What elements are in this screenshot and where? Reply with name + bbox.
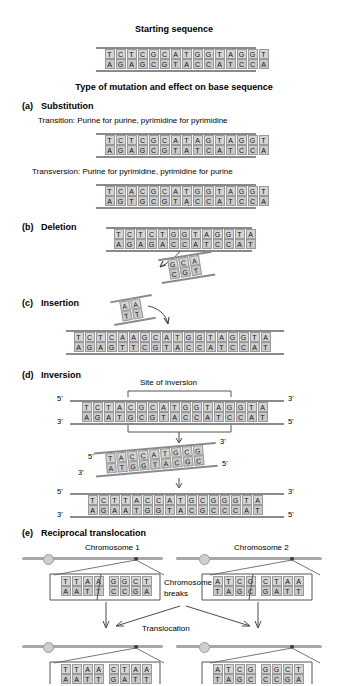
base-top: C: [151, 332, 161, 342]
base-top: G: [239, 332, 249, 342]
base-bottom: A: [110, 505, 120, 515]
insertion-arrow: [146, 302, 176, 330]
base-pair: GC: [227, 332, 238, 352]
base-bottom: A: [191, 239, 201, 249]
base-bottom: T: [149, 459, 160, 470]
base-top: C: [138, 135, 148, 145]
base-bottom: T: [261, 342, 271, 352]
c2-after-frame: [202, 662, 314, 686]
base-bottom: G: [154, 505, 164, 515]
base-top: G: [204, 135, 214, 145]
base-pair: GC: [247, 49, 258, 69]
base-bottom: A: [182, 196, 192, 206]
base-bottom: C: [248, 196, 258, 206]
inversion-down-arrow-2: [174, 478, 184, 490]
base-top: C: [143, 495, 153, 505]
base-top: T: [182, 186, 192, 196]
base-top: G: [193, 49, 203, 59]
base-bottom: G: [99, 505, 109, 515]
base-pair: GC: [236, 49, 247, 69]
base-bottom: C: [137, 412, 147, 422]
base-pair: TA: [258, 49, 269, 69]
base-pair: AT: [225, 186, 236, 206]
base-top: C: [85, 332, 95, 342]
base-top: G: [137, 402, 147, 412]
base-bottom: C: [184, 342, 194, 352]
base-top: C: [148, 402, 158, 412]
base-bottom: T: [118, 342, 128, 352]
base-bottom: A: [250, 342, 260, 352]
translocation-caption: Translocation: [142, 624, 190, 633]
base-pair: AT: [170, 49, 181, 69]
base-top: C: [99, 495, 109, 505]
base-top: C: [138, 49, 148, 59]
section-b-name: Deletion: [41, 222, 77, 232]
base-pair: GC: [224, 402, 235, 422]
base-bottom: G: [160, 59, 170, 69]
base-bottom: G: [138, 145, 148, 155]
base-pair: TA: [214, 49, 225, 69]
base-top: G: [193, 186, 203, 196]
base-bottom: A: [88, 505, 98, 515]
site-of-inversion-bracket-top: [128, 390, 232, 398]
inv-top-3prime-left: 3': [57, 417, 63, 426]
section-e-name: Reciprocal translocation: [41, 528, 146, 538]
base-pair: CG: [84, 332, 95, 352]
base-bottom: A: [182, 145, 192, 155]
base-top: T: [182, 49, 192, 59]
base-top: T: [110, 495, 120, 505]
base-top: G: [184, 332, 194, 342]
c1-before-frame: [50, 574, 162, 602]
deletion-fragment-ladder: GCCGAT: [166, 255, 202, 280]
base-pair: CG: [137, 49, 148, 69]
base-pair: TA: [126, 135, 137, 155]
base-bottom: T: [159, 412, 169, 422]
base-top: G: [237, 49, 247, 59]
base-top: T: [173, 332, 183, 342]
base-top: C: [154, 495, 164, 505]
base-bottom: A: [160, 458, 171, 469]
base-pair: AT: [260, 332, 271, 352]
base-pair: CG: [92, 402, 103, 422]
base-top: C: [125, 229, 135, 239]
base-top: T: [158, 229, 168, 239]
base-bottom: C: [149, 145, 159, 155]
base-top: T: [215, 186, 225, 196]
base-pair: GC: [223, 229, 234, 249]
base-pair: TA: [135, 229, 146, 249]
base-pair: AT: [201, 229, 212, 249]
base-top: A: [162, 332, 172, 342]
base-top: T: [170, 402, 180, 412]
base-pair: TA: [214, 135, 225, 155]
base-pair: GC: [208, 495, 219, 515]
base-bottom: A: [127, 59, 137, 69]
base-bottom: A: [82, 412, 92, 422]
base-bottom: T: [193, 145, 203, 155]
inversion-down-arrow-1: [174, 432, 184, 444]
inv-frag-3prime-left: 3': [78, 468, 84, 477]
base-pair: GC: [148, 186, 159, 206]
base-bottom: C: [204, 59, 214, 69]
base-top: A: [261, 332, 271, 342]
base-pair: AT: [225, 49, 236, 69]
base-top: T: [96, 332, 106, 342]
base-bottom: C: [181, 412, 191, 422]
base-bottom: A: [105, 196, 115, 206]
base-pair: CG: [115, 49, 126, 69]
base-pair: CG: [150, 332, 161, 352]
base-bottom: A: [105, 145, 115, 155]
base-pair: CG: [125, 402, 136, 422]
base-pair: TA: [87, 495, 98, 515]
base-bottom: T: [171, 145, 181, 155]
base-pair: TA: [234, 229, 245, 249]
base-pair: TA: [181, 49, 192, 69]
base-bottom: C: [169, 239, 179, 249]
base-pair: AT: [114, 402, 125, 422]
base-bottom: T: [127, 196, 137, 206]
base-bottom: C: [209, 505, 219, 515]
base-bottom: G: [138, 196, 148, 206]
base-bottom: G: [198, 505, 208, 515]
base-top: G: [231, 495, 241, 505]
chromosome-2-label: Chromosome 2: [234, 543, 289, 552]
